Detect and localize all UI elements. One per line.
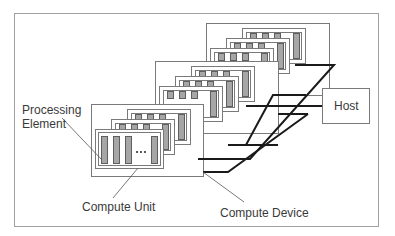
processing-element xyxy=(102,137,108,164)
processing-element xyxy=(126,137,132,164)
processing-element xyxy=(114,137,120,164)
compute-unit-label: Compute Unit xyxy=(82,200,155,214)
ellipsis-dot xyxy=(140,151,142,153)
processing-element-label: Processing Element xyxy=(22,103,81,131)
compute-device-label: Compute Device xyxy=(220,206,309,220)
processing-element-label-line2: Element xyxy=(22,117,81,131)
processing-element xyxy=(152,137,158,164)
compute-device-1 xyxy=(92,105,204,177)
processing-element-label-line1: Processing xyxy=(22,103,81,117)
compute-unit-front xyxy=(96,130,164,169)
host-label: Host xyxy=(334,99,359,113)
ellipsis-dot xyxy=(136,151,138,153)
ellipsis-dot xyxy=(144,151,146,153)
